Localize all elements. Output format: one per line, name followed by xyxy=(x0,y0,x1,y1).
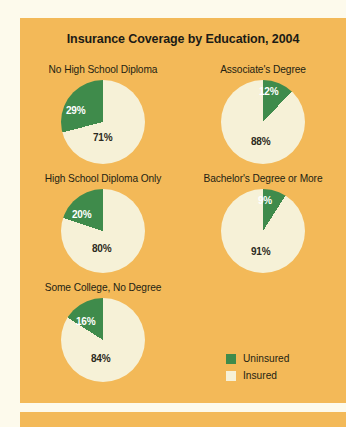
pie-value-associates-insured: 88% xyxy=(251,136,270,147)
pie-chart-bachelors: Bachelor's Degree or More 9% 91% xyxy=(188,173,338,275)
pie-value-bachelors-insured: 91% xyxy=(251,246,270,257)
pie-graphic-no-high-school xyxy=(61,80,145,164)
pie-value-high-school-only-insured: 80% xyxy=(92,243,111,254)
pie-graphic-high-school-only xyxy=(61,189,145,273)
legend-swatch-uninsured-icon xyxy=(226,354,236,364)
legend-label-insured: Insured xyxy=(243,370,277,381)
chart-legend: Uninsured Insured xyxy=(226,353,336,387)
pie-chart-no-high-school: No High School Diploma 29% 71% xyxy=(28,64,178,166)
pie-chart-label-bachelors: Bachelor's Degree or More xyxy=(188,173,338,184)
page-left-margin xyxy=(0,0,20,427)
panel-divider xyxy=(20,403,346,412)
pie-value-no-high-school-uninsured: 29% xyxy=(66,105,85,116)
pie-wrap-associates: 12% 88% xyxy=(188,80,338,166)
pie-chart-some-college: Some College, No Degree 16% 84% xyxy=(28,282,178,384)
pie-chart-label-no-high-school: No High School Diploma xyxy=(28,64,178,75)
pie-chart-label-some-college: Some College, No Degree xyxy=(28,282,178,293)
pie-wrap-bachelors: 9% 91% xyxy=(188,189,338,275)
pie-value-associates-uninsured: 12% xyxy=(259,86,278,97)
pie-value-high-school-only-uninsured: 20% xyxy=(72,209,91,220)
pie-value-bachelors-uninsured: 9% xyxy=(258,195,272,206)
pie-chart-high-school-only: High School Diploma Only 20% 80% xyxy=(28,173,178,275)
bottom-band xyxy=(20,412,346,427)
pie-wrap-high-school-only: 20% 80% xyxy=(28,189,178,275)
pie-value-some-college-insured: 84% xyxy=(91,353,110,364)
pie-chart-label-high-school-only: High School Diploma Only xyxy=(28,173,178,184)
figure-title: Insurance Coverage by Education, 2004 xyxy=(20,32,346,46)
figure-panel: Insurance Coverage by Education, 2004 No… xyxy=(20,18,346,403)
pie-value-some-college-uninsured: 16% xyxy=(76,316,95,327)
legend-swatch-insured-icon xyxy=(226,371,236,381)
pie-chart-associates: Associate's Degree 12% 88% xyxy=(188,64,338,166)
pie-wrap-some-college: 16% 84% xyxy=(28,298,178,384)
legend-item-insured: Insured xyxy=(226,370,336,381)
pie-wrap-no-high-school: 29% 71% xyxy=(28,80,178,166)
pie-chart-label-associates: Associate's Degree xyxy=(188,64,338,75)
pie-value-no-high-school-insured: 71% xyxy=(93,132,112,143)
legend-label-uninsured: Uninsured xyxy=(243,353,289,364)
legend-item-uninsured: Uninsured xyxy=(226,353,336,364)
pie-graphic-some-college xyxy=(61,298,145,382)
